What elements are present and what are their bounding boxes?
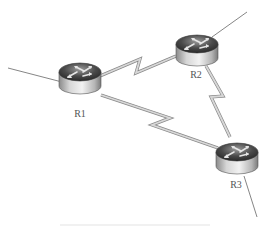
router-icon	[176, 35, 218, 66]
external-link-r2	[212, 12, 247, 37]
serial-link-r1-r2	[100, 56, 176, 76]
router-label-r3: R3	[230, 179, 242, 190]
network-diagram: R1 R2 R3	[0, 0, 270, 226]
router-icon	[216, 143, 258, 174]
router-icon	[59, 63, 101, 94]
router-r3[interactable]: R3	[216, 143, 258, 190]
router-label-r2: R2	[190, 69, 202, 80]
external-link-r1	[8, 68, 62, 82]
external-link-r3	[244, 176, 257, 217]
serial-link-r1-r3	[101, 95, 218, 148]
serial-link-r2-r3	[206, 66, 230, 137]
router-label-r1: R1	[74, 108, 86, 119]
router-r1[interactable]: R1	[59, 63, 101, 119]
